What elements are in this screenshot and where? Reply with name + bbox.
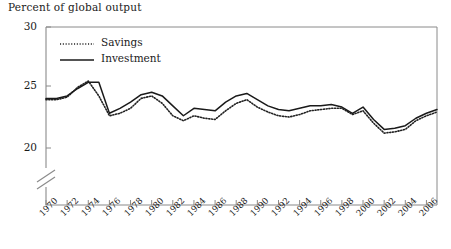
axis-break-slash-icon bbox=[37, 170, 55, 182]
legend-label-investment: Investment bbox=[101, 52, 161, 64]
legend-label-savings: Savings bbox=[101, 36, 143, 48]
series-line-savings bbox=[46, 81, 437, 133]
y-axis-tick-label: 30 bbox=[13, 20, 37, 32]
y-axis-tick-label: 25 bbox=[13, 79, 37, 91]
chart-figure: Percent of global output 202530197019721… bbox=[0, 0, 451, 249]
y-axis-tick-label: 20 bbox=[13, 141, 37, 153]
